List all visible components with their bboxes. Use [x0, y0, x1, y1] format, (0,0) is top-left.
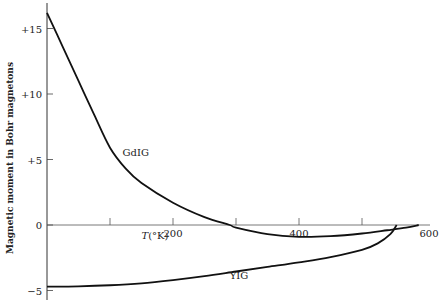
series — [47, 13, 419, 287]
labels: GdIGYIGT(°K) — [123, 147, 249, 281]
y-tick-label: +15 — [21, 24, 42, 35]
curve-gdig — [47, 13, 419, 237]
x-tick-label: 600 — [419, 228, 438, 239]
y-tick-label: +10 — [21, 89, 42, 100]
curve-yig — [47, 225, 397, 287]
x-axis-title: T(°K) — [142, 230, 169, 241]
y-axis-title: Magnetic moment in Bohr magnetons — [5, 62, 15, 254]
y-tick-label: 0 — [36, 220, 42, 231]
magnetic-moment-chart: +15+10+50−5200400600 GdIGYIGT(°K) Magnet… — [0, 0, 446, 307]
ticks: +15+10+50−5200400600 — [21, 24, 439, 297]
label-gdig: GdIG — [123, 147, 149, 158]
axes — [47, 3, 430, 300]
label-yig: YIG — [229, 270, 249, 281]
y-tick-label: −5 — [27, 286, 42, 297]
y-tick-label: +5 — [27, 155, 42, 166]
